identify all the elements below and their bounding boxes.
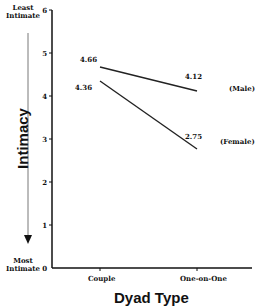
male-series-label: (Male) xyxy=(229,85,255,93)
female-series-line xyxy=(100,81,197,149)
female-one-on-one-value: 2.75 xyxy=(185,133,202,141)
female-series-label: (Female) xyxy=(220,138,255,146)
y-axis-title: Intimacy xyxy=(14,101,31,177)
y-tick-label-3: 3 xyxy=(37,135,47,144)
y-tick-label-4: 4 xyxy=(37,92,47,101)
x-category-one-on-one: One-on-One xyxy=(180,274,227,283)
male-one-on-one-value: 4.12 xyxy=(185,73,202,81)
y-tick-label-1: 1 xyxy=(37,221,47,230)
x-category-couple: Couple xyxy=(88,274,115,283)
y-tick-label-6: 6 xyxy=(37,6,47,15)
female-couple-value: 4.36 xyxy=(75,84,92,92)
x-axis-title: Dyad Type xyxy=(114,289,189,306)
y-tick-label-2: 2 xyxy=(37,178,47,187)
y-tick-label-0: 0 xyxy=(37,264,47,273)
male-series-line xyxy=(100,67,197,91)
y-tick-label-5: 5 xyxy=(37,49,47,58)
direction-arrow-icon xyxy=(24,235,32,244)
male-couple-value: 4.66 xyxy=(80,56,97,64)
